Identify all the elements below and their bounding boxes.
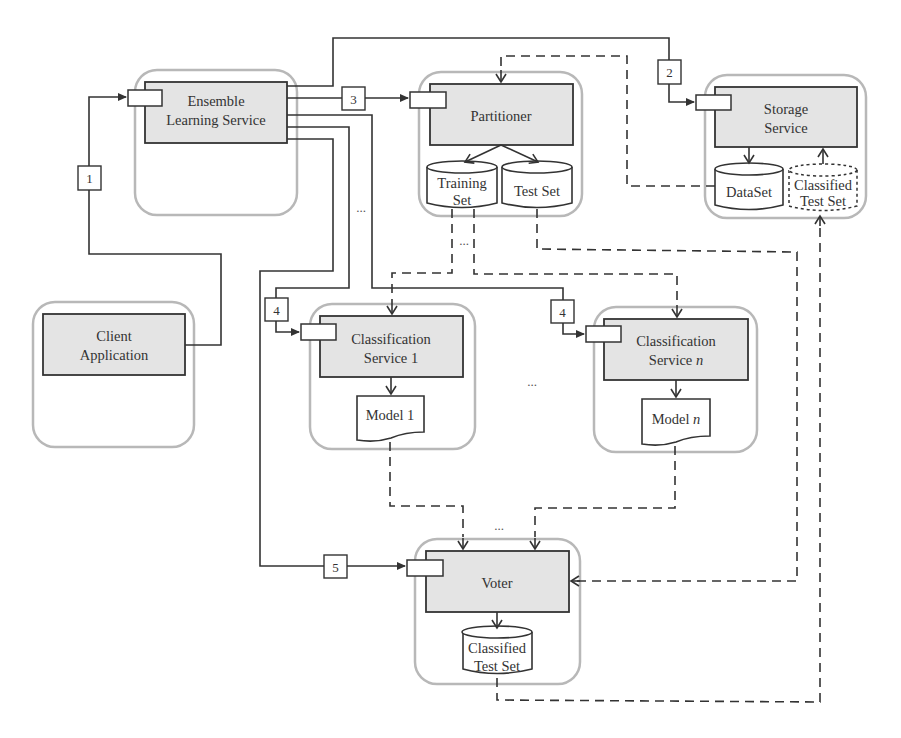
svg-text:Test Set: Test Set	[800, 193, 846, 209]
client-label-line2: Application	[80, 347, 149, 363]
storage-service: Storage Service	[696, 87, 857, 147]
svg-text:Classified: Classified	[468, 640, 527, 656]
classification-service-n: Classification Service n	[586, 319, 748, 380]
model-n-document: Model n	[642, 399, 710, 445]
voter-label: Voter	[481, 575, 512, 591]
svg-text:Test Set: Test Set	[514, 183, 560, 199]
storage-label-line2: Service	[764, 120, 807, 136]
dataset-store: DataSet	[715, 163, 783, 210]
ensemble-learning-service: Ensemble Learning Service	[128, 82, 287, 143]
svg-text:Test Set: Test Set	[474, 658, 520, 674]
step-4-classifier-n-badge: 4	[551, 300, 574, 323]
ellipsis-voter-inputs: ...	[494, 518, 504, 533]
ensemble-label-line2: Learning Service	[166, 112, 265, 128]
voter-classified-test-set-store: Classified Test Set	[462, 626, 532, 674]
ensemble-port	[128, 90, 162, 106]
classifier1-label-line1: Classification	[351, 331, 431, 347]
partitioner-label: Partitioner	[470, 108, 531, 124]
test-set-store: Test Set	[502, 161, 572, 208]
dataflow-modelN-to-voter	[535, 446, 675, 537]
svg-text:Set: Set	[453, 192, 472, 208]
svg-text:Model n: Model n	[652, 411, 701, 427]
classification-service-1: Classification Service 1	[301, 316, 463, 377]
training-set-store: Training Set	[427, 161, 497, 208]
step-1-badge: 1	[78, 166, 101, 190]
classifier1-port	[301, 324, 336, 340]
storage-classified-test-set-store: Classified Test Set	[789, 164, 857, 211]
step-4-classifier-1-badge: 4	[265, 298, 288, 321]
ellipsis-ensemble-lines: ...	[356, 200, 366, 215]
storage-label-line1: Storage	[764, 101, 808, 117]
classifierN-label-line2: Service n	[649, 352, 703, 368]
step-2-badge: 2	[658, 60, 681, 84]
step-3-badge: 3	[342, 87, 365, 110]
partitioner-service: Partitioner	[410, 84, 573, 145]
svg-text:1: 1	[86, 171, 93, 186]
svg-text:DataSet: DataSet	[726, 184, 772, 200]
storage-port	[696, 95, 731, 110]
client-label-line1: Client	[96, 328, 131, 344]
dataflow-training-to-classifier-n	[474, 209, 677, 305]
dataflow-voter-classified-to-storage	[497, 228, 820, 702]
svg-text:4: 4	[559, 305, 566, 320]
partitioner-to-test-arrow	[501, 145, 538, 162]
ellipsis-training-outputs: ...	[459, 233, 469, 248]
client-application: Client Application	[43, 314, 185, 375]
svg-text:Classified: Classified	[794, 177, 853, 193]
step-5-badge: 5	[324, 555, 347, 578]
classifierN-port	[586, 326, 621, 342]
svg-text:Training: Training	[437, 175, 486, 191]
svg-text:3: 3	[350, 92, 357, 107]
classifier1-label-line2: Service 1	[364, 350, 418, 366]
svg-text:4: 4	[273, 303, 280, 318]
flow-ensemble-to-classifier-n	[287, 115, 584, 334]
svg-text:Model 1: Model 1	[366, 407, 415, 423]
ensemble-architecture-diagram: Ensemble Learning Service Partitioner St…	[0, 0, 901, 738]
voter-port	[407, 560, 443, 576]
partitioner-port	[410, 92, 446, 108]
svg-text:2: 2	[666, 65, 673, 80]
svg-text:5: 5	[332, 560, 339, 575]
ellipsis-classifiers-between: ...	[527, 374, 537, 389]
dataflow-model1-to-voter	[390, 442, 463, 537]
classifierN-label-line1: Classification	[636, 333, 716, 349]
model-1-document: Model 1	[357, 396, 424, 441]
ensemble-label-line1: Ensemble	[187, 93, 244, 109]
partitioner-to-training-arrow	[465, 145, 501, 162]
voter-service: Voter	[407, 551, 569, 612]
